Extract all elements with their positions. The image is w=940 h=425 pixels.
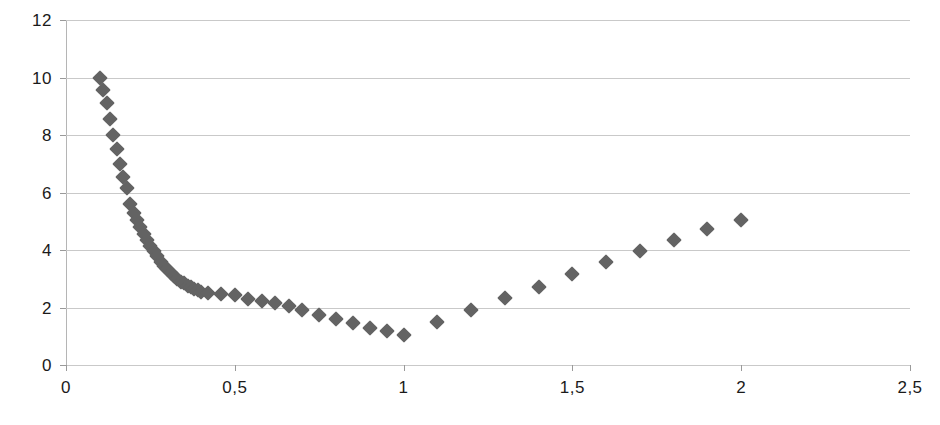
x-tick-label: 0 [61, 379, 71, 396]
x-tick-mark [404, 365, 405, 371]
x-tick-mark [66, 365, 67, 371]
y-tick-mark [60, 193, 66, 194]
x-tick-mark [741, 365, 742, 371]
y-tick-label: 10 [0, 69, 52, 86]
y-tick-label: 0 [0, 357, 52, 374]
x-tick-label: 0,5 [222, 379, 247, 396]
x-tick-mark [910, 365, 911, 371]
gridline-y [66, 250, 910, 251]
y-tick-mark [60, 250, 66, 251]
scatter-chart: 024681012 00,511,522,5 [0, 0, 940, 425]
gridline-y [66, 78, 910, 79]
x-tick-mark [572, 365, 573, 371]
y-tick-label: 12 [0, 12, 52, 29]
x-tick-label: 1 [399, 379, 409, 396]
y-tick-label: 2 [0, 299, 52, 316]
y-tick-label: 6 [0, 184, 52, 201]
gridline-y [66, 365, 910, 366]
x-tick-label: 2,5 [897, 379, 922, 396]
gridline-y [66, 193, 910, 194]
y-tick-mark [60, 135, 66, 136]
y-tick-label: 4 [0, 242, 52, 259]
x-tick-label: 2 [736, 379, 746, 396]
gridline-y [66, 20, 910, 21]
gridline-y [66, 135, 910, 136]
y-tick-mark [60, 308, 66, 309]
gridline-y [66, 308, 910, 309]
y-tick-mark [60, 78, 66, 79]
x-tick-mark [235, 365, 236, 371]
x-tick-label: 1,5 [560, 379, 585, 396]
y-tick-mark [60, 20, 66, 21]
y-tick-label: 8 [0, 127, 52, 144]
